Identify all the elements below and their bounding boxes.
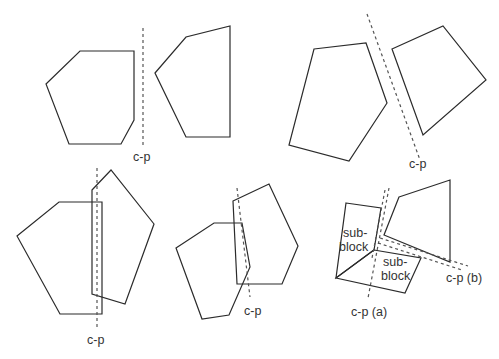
right-polygon [155, 26, 230, 137]
left-pentagon [17, 202, 102, 314]
left-hexagon [176, 223, 250, 319]
right-pentagon [233, 184, 298, 284]
panel-top-left: c-p [46, 26, 230, 164]
panel-bottom-left: c-p [17, 168, 154, 347]
cutting-plane-b-label: c-p (b) [446, 271, 482, 285]
sub-block-label-2: sub- block [381, 255, 411, 283]
pentagon [289, 43, 387, 161]
left-polygon [46, 51, 134, 144]
panel-bottom-middle: c-p [176, 184, 298, 319]
panel-top-right: c-p [289, 14, 486, 171]
cutting-plane-label: c-p [87, 333, 104, 347]
cutting-plane-label: c-p [244, 304, 261, 318]
sub-block-label-1: sub- block [339, 226, 371, 254]
right-pentagon [92, 170, 154, 304]
cutting-plane-label: c-p [409, 157, 426, 171]
cutting-plane-label: c-p [133, 150, 150, 164]
quadrilateral [392, 26, 486, 135]
cutting-plane-line [367, 14, 420, 160]
cutting-plane-a-label: c-p (a) [351, 305, 387, 319]
cutting-plane-diagram: c-p c-p c-p c-p sub- block sub- [0, 0, 499, 359]
panel-bottom-right: sub- block sub- block c-p (a) c-p (b) [336, 180, 482, 319]
